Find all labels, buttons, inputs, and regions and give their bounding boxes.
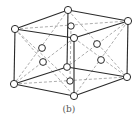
atom-bottom-back-inner	[64, 64, 71, 71]
atom-mid-left-upper	[39, 45, 46, 52]
figure-caption: (b)	[0, 104, 138, 114]
atom-bottom-front	[70, 92, 77, 99]
hcp-crystal-diagram	[0, 0, 138, 105]
atom-top-right	[124, 17, 131, 24]
atom-bottom-left	[10, 80, 17, 87]
atom-mid-left-lower	[40, 59, 47, 66]
atom-mid-right-lower	[98, 57, 105, 64]
atoms	[10, 6, 131, 99]
atom-top-front	[70, 34, 77, 41]
atom-bottom-center-inner	[67, 78, 73, 84]
atom-bottom-right	[123, 73, 130, 80]
atom-top-center	[64, 6, 71, 13]
atom-top-back-inner	[68, 23, 74, 29]
atom-top-left	[11, 25, 18, 32]
atom-mid-right-upper	[94, 41, 101, 48]
